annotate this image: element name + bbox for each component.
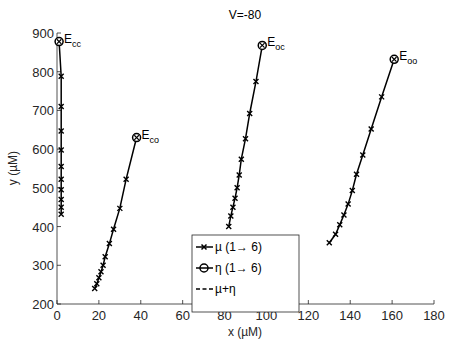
x-marker-icon: [327, 240, 332, 245]
y-tick-label: 300: [32, 258, 54, 273]
y-tick-label: 400: [32, 220, 54, 235]
y-tick-label: 700: [32, 103, 54, 118]
y-tick-label: 600: [32, 142, 54, 157]
endpoint-label: Eoo: [399, 49, 417, 66]
legend-label-sum: µ+η: [215, 282, 236, 296]
x-tick-label: 20: [92, 308, 106, 323]
y-tick-label: 200: [32, 297, 54, 312]
x-tick-label: 160: [381, 308, 403, 323]
y-tick-label: 900: [32, 26, 54, 41]
y-axis-label: y (µM): [6, 151, 20, 185]
x-tick-label: 40: [134, 308, 148, 323]
x-tick-label: 120: [297, 308, 319, 323]
legend-label-eta: η (1→ 6): [215, 261, 262, 275]
legend-label-mu: µ (1→ 6): [215, 240, 262, 254]
x-tick-label: 140: [339, 308, 361, 323]
x-axis-label: x (µM): [228, 325, 262, 339]
y-tick-label: 800: [32, 65, 54, 80]
series-e-oo: Eoo: [327, 49, 417, 245]
endpoint-label: Eco: [142, 128, 160, 145]
series-e-co: Eco: [92, 128, 159, 291]
series-e-cc: Ecc: [55, 32, 82, 217]
series-e-oc: Eoc: [226, 35, 285, 229]
x-tick-label: 180: [423, 308, 445, 323]
x-tick-label: 0: [53, 308, 60, 323]
chart: 0204060801001201401601802003004005006007…: [0, 0, 463, 347]
endpoint-label: Ecc: [64, 32, 82, 49]
endpoint-label: Eoc: [267, 35, 285, 52]
legend: µ (1→ 6) η (1→ 6) µ+η: [192, 235, 299, 312]
y-tick-label: 500: [32, 181, 54, 196]
chart-title: V=-80: [229, 8, 262, 22]
x-tick-label: 60: [175, 308, 189, 323]
